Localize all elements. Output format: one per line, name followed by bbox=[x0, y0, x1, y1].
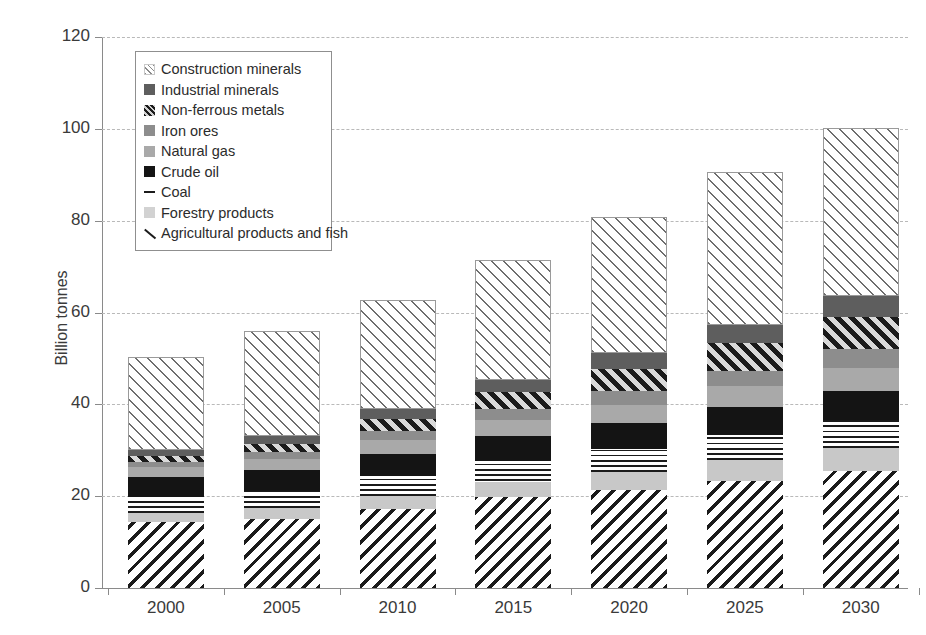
legend-label: Construction minerals bbox=[161, 62, 301, 77]
non-ferrous-metals-icon bbox=[144, 105, 155, 116]
segment-iron-ores-2000 bbox=[128, 462, 204, 468]
segment-coal-2005 bbox=[244, 491, 320, 508]
segment-crude-oil-2010 bbox=[360, 454, 436, 476]
segment-non-ferrous-metals-2020 bbox=[591, 369, 667, 391]
segment-agricultural-products-and-fish-2020 bbox=[591, 490, 667, 588]
legend-item-non-ferrous-metals[interactable]: Non-ferrous metals bbox=[144, 100, 325, 121]
segment-crude-oil-2030 bbox=[823, 391, 899, 421]
bar-2010[interactable] bbox=[360, 300, 436, 588]
segment-forestry-products-2025 bbox=[707, 460, 783, 480]
x-tick-mark-end bbox=[919, 588, 920, 595]
y-tick-label-20: 20 bbox=[40, 485, 90, 505]
segment-coal-2015 bbox=[475, 461, 551, 482]
legend-label: Crude oil bbox=[161, 165, 219, 180]
x-tick-label-2000: 2000 bbox=[126, 598, 206, 618]
segment-construction-minerals-2000 bbox=[128, 357, 204, 450]
segment-crude-oil-2000 bbox=[128, 477, 204, 497]
segment-forestry-products-2015 bbox=[475, 482, 551, 497]
y-tick-label-80: 80 bbox=[40, 210, 90, 230]
bar-2015[interactable] bbox=[475, 260, 551, 588]
segment-construction-minerals-2025 bbox=[707, 172, 783, 324]
segment-natural-gas-2030 bbox=[823, 368, 899, 391]
legend-item-crude-oil[interactable]: Crude oil bbox=[144, 162, 325, 183]
segment-industrial-minerals-2025 bbox=[707, 325, 783, 343]
bar-2025[interactable] bbox=[707, 172, 783, 588]
legend-item-iron-ores[interactable]: Iron ores bbox=[144, 121, 325, 142]
legend-item-coal[interactable]: Coal bbox=[144, 182, 325, 203]
y-tick-label-120: 120 bbox=[40, 26, 90, 46]
segment-construction-minerals-2020 bbox=[591, 217, 667, 354]
segment-forestry-products-2030 bbox=[823, 448, 899, 471]
x-tick-mark-2030 bbox=[803, 588, 804, 595]
construction-minerals-icon bbox=[144, 64, 155, 75]
y-tick-label-60: 60 bbox=[40, 302, 90, 322]
bar-2005[interactable] bbox=[244, 331, 320, 588]
legend-item-construction-minerals[interactable]: Construction minerals bbox=[144, 59, 325, 80]
coal-icon bbox=[144, 187, 155, 198]
industrial-minerals-icon bbox=[144, 84, 155, 95]
legend-label: Natural gas bbox=[161, 144, 235, 159]
segment-agricultural-products-and-fish-2030 bbox=[823, 471, 899, 588]
segment-non-ferrous-metals-2010 bbox=[360, 419, 436, 431]
segment-natural-gas-2010 bbox=[360, 440, 436, 454]
segment-forestry-products-2020 bbox=[591, 472, 667, 489]
segment-non-ferrous-metals-2005 bbox=[244, 444, 320, 452]
iron-ores-icon bbox=[144, 125, 155, 136]
segment-agricultural-products-and-fish-2000 bbox=[128, 522, 204, 588]
segment-industrial-minerals-2030 bbox=[823, 296, 899, 317]
segment-coal-2010 bbox=[360, 476, 436, 495]
segment-non-ferrous-metals-2000 bbox=[128, 456, 204, 462]
x-tick-mark-2020 bbox=[571, 588, 572, 595]
segment-iron-ores-2025 bbox=[707, 371, 783, 387]
segment-forestry-products-2005 bbox=[244, 508, 320, 519]
segment-industrial-minerals-2010 bbox=[360, 409, 436, 419]
segment-natural-gas-2015 bbox=[475, 420, 551, 436]
legend-label: Forestry products bbox=[161, 206, 274, 221]
bar-2030[interactable] bbox=[823, 128, 899, 588]
y-tick-mark-20 bbox=[95, 496, 102, 497]
legend-item-industrial-minerals[interactable]: Industrial minerals bbox=[144, 80, 325, 101]
x-tick-label-2025: 2025 bbox=[705, 598, 785, 618]
segment-coal-2000 bbox=[128, 497, 204, 513]
segment-construction-minerals-2030 bbox=[823, 128, 899, 297]
segment-industrial-minerals-2020 bbox=[591, 353, 667, 369]
legend-item-agricultural-products-and-fish[interactable]: Agricultural products and fish bbox=[144, 223, 325, 244]
agricultural-products-and-fish-icon bbox=[144, 228, 155, 239]
legend-label: Non-ferrous metals bbox=[161, 103, 284, 118]
x-tick-label-2030: 2030 bbox=[821, 598, 901, 618]
segment-iron-ores-2020 bbox=[591, 391, 667, 404]
y-tick-mark-80 bbox=[95, 221, 102, 222]
segment-natural-gas-2000 bbox=[128, 467, 204, 477]
segment-industrial-minerals-2015 bbox=[475, 380, 551, 392]
segment-agricultural-products-and-fish-2025 bbox=[707, 481, 783, 588]
segment-agricultural-products-and-fish-2010 bbox=[360, 509, 436, 588]
y-tick-mark-0 bbox=[95, 588, 102, 589]
segment-crude-oil-2025 bbox=[707, 407, 783, 435]
segment-crude-oil-2020 bbox=[591, 423, 667, 449]
legend-label: Industrial minerals bbox=[161, 83, 279, 98]
segment-non-ferrous-metals-2025 bbox=[707, 343, 783, 371]
x-tick-mark-2000 bbox=[108, 588, 109, 595]
segment-construction-minerals-2005 bbox=[244, 331, 320, 436]
stacked-bar-chart: Billion tonnes 120100806040200 200020052… bbox=[0, 0, 926, 635]
y-tick-mark-60 bbox=[95, 313, 102, 314]
segment-natural-gas-2005 bbox=[244, 459, 320, 470]
segment-construction-minerals-2015 bbox=[475, 260, 551, 380]
y-tick-label-0: 0 bbox=[40, 577, 90, 597]
legend-item-natural-gas[interactable]: Natural gas bbox=[144, 141, 325, 162]
segment-crude-oil-2015 bbox=[475, 436, 551, 460]
y-tick-mark-100 bbox=[95, 129, 102, 130]
segment-natural-gas-2025 bbox=[707, 386, 783, 407]
gridline-120 bbox=[102, 37, 908, 38]
y-tick-label-40: 40 bbox=[40, 393, 90, 413]
x-tick-mark-2015 bbox=[455, 588, 456, 595]
bar-2020[interactable] bbox=[591, 217, 667, 588]
segment-forestry-products-2010 bbox=[360, 496, 436, 509]
segment-coal-2025 bbox=[707, 435, 783, 460]
y-tick-mark-120 bbox=[95, 37, 102, 38]
legend-item-forestry-products[interactable]: Forestry products bbox=[144, 203, 325, 224]
legend-label: Agricultural products and fish bbox=[161, 226, 348, 241]
segment-agricultural-products-and-fish-2005 bbox=[244, 519, 320, 588]
bar-2000[interactable] bbox=[128, 357, 204, 588]
y-tick-mark-40 bbox=[95, 404, 102, 405]
